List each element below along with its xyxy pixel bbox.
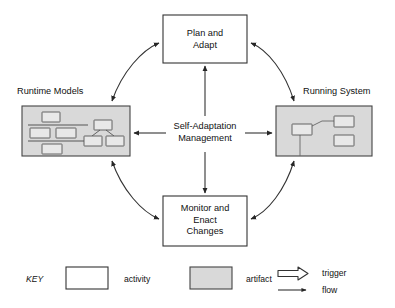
- artifact-title-runtime-models: Runtime Models: [17, 86, 83, 96]
- runtime-models-node-3: [56, 128, 76, 138]
- key-activity-swatch: [66, 267, 108, 289]
- running-system-node-3: [334, 135, 354, 146]
- trigger-arc-monitor-running-system: [251, 161, 294, 219]
- key-label-activity: activity: [124, 274, 150, 284]
- runtime-models-tree-child-1: [84, 136, 102, 146]
- runtime-models-node-1: [42, 112, 60, 122]
- runtime-models-tree-child-2: [106, 136, 124, 146]
- runtime-models-node-4: [42, 144, 62, 154]
- artifact-running-system[interactable]: [276, 106, 372, 156]
- key-trigger-arrow-icon: [278, 267, 308, 280]
- trigger-arc-runtime-models-plan: [112, 43, 159, 101]
- runtime-models-tree-root: [94, 120, 112, 130]
- running-system-body: [276, 106, 372, 156]
- diagram-graphics: [0, 0, 395, 308]
- trigger-arc-plan-running-system: [251, 43, 294, 101]
- key-title: KEY: [26, 274, 43, 284]
- key-label-flow: flow: [322, 285, 337, 295]
- key-label-trigger: trigger: [322, 268, 346, 278]
- key-label-artifact: artifact: [246, 274, 272, 284]
- running-system-node-2: [334, 116, 354, 127]
- key-artifact-swatch: [190, 267, 232, 289]
- diagram-canvas: Plan and Adapt Monitor and Enact Changes…: [0, 0, 395, 308]
- artifact-runtime-models[interactable]: [22, 106, 130, 156]
- runtime-models-node-2: [30, 128, 50, 138]
- activity-box-monitor-and-enact-changes[interactable]: [163, 196, 247, 246]
- activity-box-plan-and-adapt[interactable]: [163, 15, 247, 63]
- trigger-arc-runtime-models-monitor: [112, 161, 159, 219]
- running-system-node-1: [292, 124, 312, 135]
- artifact-title-running-system: Running System: [303, 86, 370, 96]
